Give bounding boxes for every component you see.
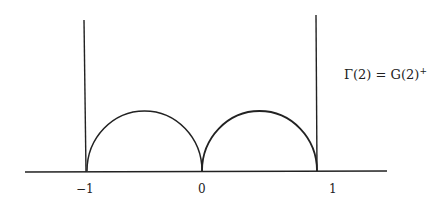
right-vertical-line (316, 15, 317, 171)
tick-label-1: 1 (329, 182, 337, 196)
left-vertical-line (84, 20, 86, 172)
group-label-main: Γ(2) = G(2) (344, 67, 419, 82)
group-label: Γ(2) = G(2)+ (344, 66, 427, 82)
tick-label-neg1: −1 (76, 182, 94, 196)
group-label-sup: + (419, 66, 427, 76)
right-semicircle (202, 111, 317, 171)
tick-label-0: 0 (198, 182, 206, 196)
left-semicircle (87, 111, 202, 171)
real-axis (25, 171, 387, 172)
fundamental-domain-diagram (0, 0, 446, 203)
